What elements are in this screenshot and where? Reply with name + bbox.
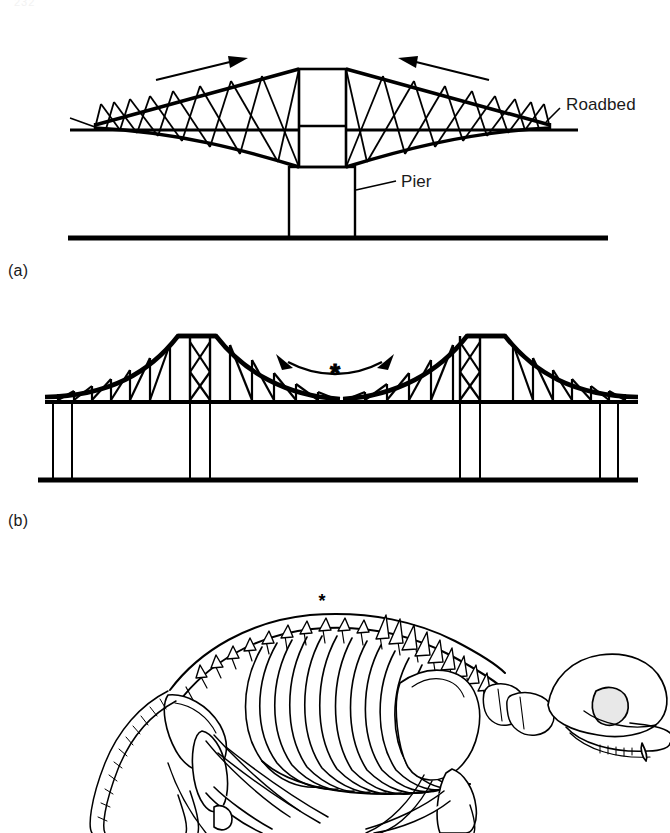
right-cantilever-arm xyxy=(346,69,578,167)
figure-panel-a xyxy=(0,0,670,300)
left-cantilever-arm xyxy=(70,69,299,167)
panel-a-caption: (a) xyxy=(8,262,28,280)
left-compression-arrow xyxy=(156,56,248,80)
left-tower-truss xyxy=(45,336,340,400)
left-deck-leader-line xyxy=(70,118,95,127)
pier-base xyxy=(289,167,355,238)
figure-page: 232 xyxy=(0,0,670,833)
cantilever-bridge-two-towers-diagram: * xyxy=(0,300,670,555)
pier-leader-line xyxy=(356,181,396,190)
tail xyxy=(90,691,176,833)
roadbed-label: Roadbed xyxy=(566,95,636,115)
hind-limb-near xyxy=(192,731,272,833)
mammal-skeleton-lateral-view: * xyxy=(0,555,670,833)
central-tower xyxy=(299,69,346,167)
cervical-vertebrae xyxy=(483,684,554,735)
roadbed-leader-line xyxy=(546,108,560,122)
span-asterisk: * xyxy=(330,358,341,388)
scapula xyxy=(396,670,479,780)
figure-panel-c: * xyxy=(0,555,670,833)
right-compression-arrow xyxy=(398,56,489,80)
panel-b-caption: (b) xyxy=(8,512,28,530)
cantilever-bridge-single-pier-diagram xyxy=(0,0,670,300)
pier-columns xyxy=(53,402,618,480)
skull xyxy=(548,654,670,761)
vertebral-column-asterisk: * xyxy=(318,591,325,611)
pier-label: Pier xyxy=(401,172,432,192)
figure-panel-b: * xyxy=(0,300,670,555)
